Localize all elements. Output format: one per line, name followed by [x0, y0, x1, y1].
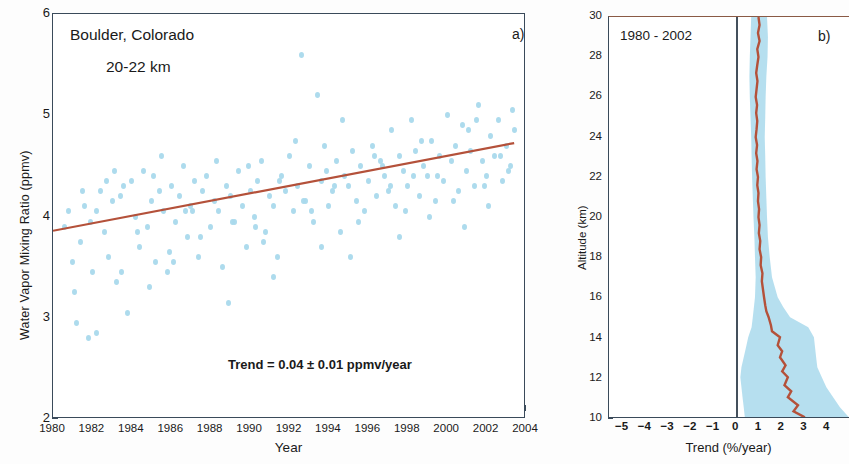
panel-b-y-tick-label: 10 [580, 411, 602, 423]
panel-b-y-tick-label: 20 [580, 210, 602, 222]
panel-a-y-tick-mark [52, 418, 58, 419]
panel-b-x-axis-label: Trend (%/year) [608, 440, 849, 455]
panel-a-x-tick-mark [525, 405, 526, 411]
trend-line-segment [53, 143, 514, 231]
panel-b-y-tick-label: 22 [580, 170, 602, 182]
panel-b-tag: b) [818, 28, 830, 44]
panel-a-x-tick-label: 1998 [387, 422, 427, 434]
panel-a-y-tick-label: 4 [30, 208, 50, 223]
panel-a-site-annotation: Boulder, Colorado [70, 26, 194, 44]
panel-a-x-tick-label: 1982 [71, 422, 111, 434]
panel-a-x-tick-label: 2004 [505, 422, 545, 434]
panel-a-x-tick-label: 1980 [32, 422, 72, 434]
panel-a-y-axis-label: Water Vapor Mixing Ratio (ppmv) [18, 0, 32, 340]
panel-b-y-tick-label: 26 [580, 89, 602, 101]
panel-a-x-axis-label: Year [52, 440, 525, 455]
panel-a-x-tick-label: 1994 [308, 422, 348, 434]
panel-a-x-tick-label: 1984 [111, 422, 151, 434]
panel-b-y-tick-label: 16 [580, 290, 602, 302]
panel-a-x-tick-label: 1986 [150, 422, 190, 434]
panel-b-zero-reference-line [736, 17, 737, 418]
panel-a-trend-annotation: Trend = 0.04 ± 0.01 ppmv/year [228, 357, 412, 372]
figure-root: Water Vapor Mixing Ratio (ppmv) 23456 19… [0, 0, 849, 464]
panel-b-x-tick-label: 4 [813, 420, 839, 432]
panel-b-y-tick-label: 14 [580, 331, 602, 343]
panel-b-period-annotation: 1980 - 2002 [620, 28, 692, 43]
panel-a-x-tick-label: 2002 [466, 422, 506, 434]
panel-a-y-tick-label: 3 [30, 309, 50, 324]
panel-a-timeseries: Water Vapor Mixing Ratio (ppmv) 23456 19… [0, 0, 580, 464]
panel-b-y-tick-label: 28 [580, 49, 602, 61]
panel-a-x-tick-label: 1988 [190, 422, 230, 434]
panel-b-y-tick-label: 12 [580, 371, 602, 383]
panel-b-plot-area [608, 16, 849, 418]
panel-a-altitude-annotation: 20-22 km [106, 58, 171, 76]
panel-b-y-tick-label: 24 [580, 130, 602, 142]
panel-a-x-tick-label: 1990 [229, 422, 269, 434]
panel-a-y-tick-label: 6 [30, 5, 50, 20]
panel-b-profile: Altitude (km) 1012141618202224262830 −5−… [580, 0, 849, 464]
panel-a-x-tick-label: 1996 [347, 422, 387, 434]
panel-a-x-tick-label: 1992 [269, 422, 309, 434]
panel-b-y-tick-label: 18 [580, 250, 602, 262]
panel-b-y-tick-mark [608, 418, 613, 419]
panel-a-x-tick-label: 2000 [426, 422, 466, 434]
panel-a-tag: a) [512, 26, 524, 42]
panel-b-y-tick-label: 30 [580, 9, 602, 21]
panel-b-profile-line [609, 17, 849, 417]
panel-a-y-tick-label: 5 [30, 106, 50, 121]
